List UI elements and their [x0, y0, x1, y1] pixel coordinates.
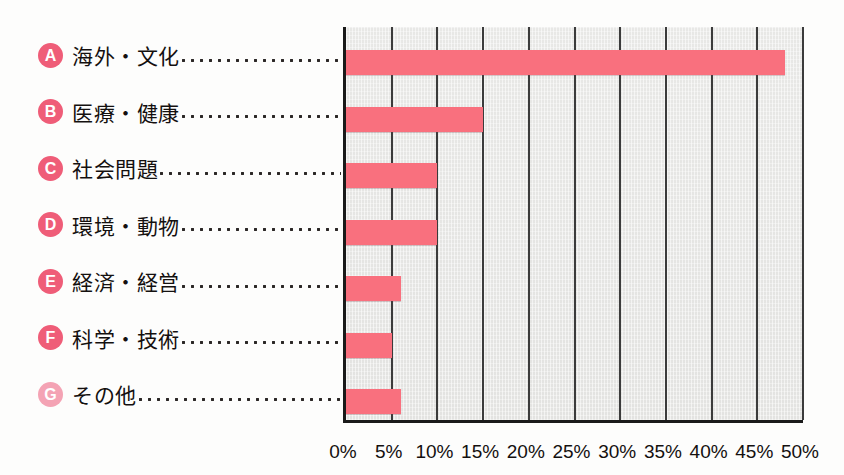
plot-area — [343, 27, 803, 423]
dotted-leader-line — [182, 101, 342, 122]
gridline — [802, 27, 804, 420]
x-axis-tick-label: 40% — [690, 441, 728, 463]
category-label-row: F科学・技術 — [0, 321, 343, 355]
x-axis-tick-label: 15% — [461, 441, 499, 463]
category-label-row: A海外・文化 — [0, 38, 343, 72]
category-badge-icon: B — [38, 99, 63, 124]
category-label-text: 環境・動物 — [72, 210, 180, 240]
category-label-row: Gその他 — [0, 377, 343, 411]
category-label-text: 医療・健康 — [72, 97, 180, 127]
x-axis-tick-label: 50% — [781, 441, 819, 463]
gridline — [574, 27, 576, 420]
category-badge-icon: D — [38, 212, 63, 237]
dotted-leader-line — [182, 45, 342, 66]
x-axis-tick-label: 10% — [415, 441, 453, 463]
dotted-leader-line — [182, 214, 342, 235]
dotted-leader-line — [139, 384, 342, 405]
x-axis-tick-label: 5% — [375, 441, 402, 463]
bar — [346, 50, 785, 75]
x-axis-tick-label: 0% — [329, 441, 356, 463]
category-label-row: C社会問題 — [0, 151, 343, 185]
category-label-row: D環境・動物 — [0, 208, 343, 242]
x-axis-tick-labels: 0%5%10%15%20%25%30%35%40%45%50% — [343, 441, 800, 467]
gridline — [711, 27, 713, 420]
category-label-text: 海外・文化 — [72, 40, 180, 70]
dotted-leader-line — [182, 327, 342, 348]
category-label-text: その他 — [72, 379, 137, 409]
category-label-row: E経済・経営 — [0, 264, 343, 298]
category-badge-icon: F — [38, 325, 63, 350]
bar — [346, 276, 401, 301]
gridline — [482, 27, 484, 420]
category-label-text: 経済・経営 — [72, 266, 180, 296]
x-axis-tick-label: 20% — [507, 441, 545, 463]
bar — [346, 107, 483, 132]
bar — [346, 333, 392, 358]
dotted-leader-line — [160, 158, 341, 179]
category-label-text: 社会問題 — [72, 153, 158, 183]
category-label-column: A海外・文化B医療・健康C社会問題D環境・動物E経済・経営F科学・技術Gその他 — [0, 0, 343, 420]
gridline — [756, 27, 758, 420]
category-label-row: B医療・健康 — [0, 95, 343, 129]
gridline — [665, 27, 667, 420]
bar — [346, 163, 437, 188]
horizontal-bar-chart: A海外・文化B医療・健康C社会問題D環境・動物E経済・経営F科学・技術Gその他 … — [0, 0, 844, 475]
gridline — [619, 27, 621, 420]
bar — [346, 389, 401, 414]
x-axis-tick-label: 35% — [644, 441, 682, 463]
bar — [346, 220, 437, 245]
gridline — [528, 27, 530, 420]
category-label-text: 科学・技術 — [72, 323, 180, 353]
dotted-leader-line — [182, 271, 342, 292]
x-axis-tick-label: 25% — [552, 441, 590, 463]
category-badge-icon: G — [38, 382, 63, 407]
category-badge-icon: C — [38, 156, 63, 181]
category-badge-icon: A — [38, 43, 63, 68]
x-axis-tick-label: 45% — [735, 441, 773, 463]
category-badge-icon: E — [38, 269, 63, 294]
x-axis-tick-label: 30% — [598, 441, 636, 463]
